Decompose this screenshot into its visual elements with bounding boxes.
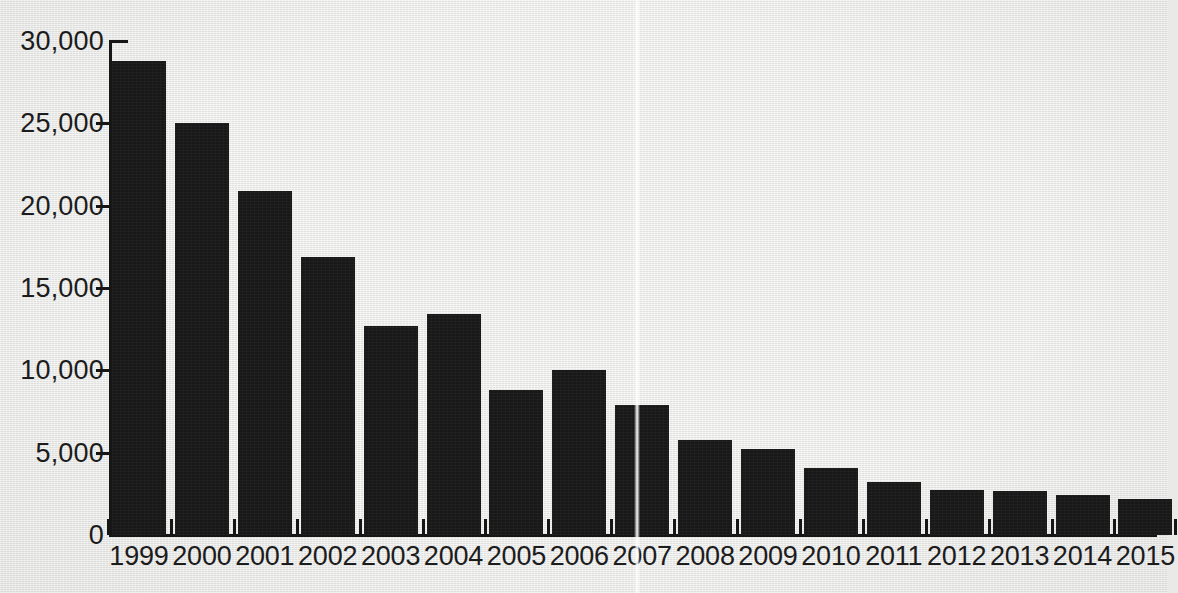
x-axis-tick-mark: [925, 519, 928, 535]
x-axis-tick-mark: [1051, 519, 1054, 535]
bar: [427, 314, 481, 535]
x-axis-tick-mark: [610, 519, 613, 535]
x-axis-tick-label: 2003: [358, 541, 424, 572]
bar: [112, 61, 166, 535]
bar: [930, 490, 984, 535]
x-axis-tick-label: 2013: [987, 541, 1053, 572]
bar: [1056, 495, 1110, 535]
bar: [175, 123, 229, 535]
x-axis-tick-mark: [170, 519, 173, 535]
x-axis-tick-mark: [422, 519, 425, 535]
bar: [678, 440, 732, 536]
x-axis-tick-label: 2004: [421, 541, 487, 572]
bar: [741, 449, 795, 535]
bar: [238, 191, 292, 535]
bar: [552, 370, 606, 535]
x-axis-tick-mark: [359, 519, 362, 535]
x-axis-tick-label: 2008: [672, 541, 738, 572]
x-axis-tick-mark: [673, 519, 676, 535]
x-axis-tick-label: 2010: [798, 541, 864, 572]
x-axis-tick-mark: [1113, 519, 1116, 535]
x-axis-tick-label: 2011: [861, 541, 927, 572]
x-axis-tick-label: 2012: [924, 541, 990, 572]
x-axis-tick-mark: [296, 519, 299, 535]
x-axis-tick-mark: [547, 519, 550, 535]
x-axis-tick-mark: [736, 519, 739, 535]
x-axis-tick-label: 2005: [483, 541, 549, 572]
bar: [804, 468, 858, 536]
x-axis-tick-label: 1999: [106, 541, 172, 572]
x-axis-tick-mark: [799, 519, 802, 535]
x-axis-tick-label: 2002: [295, 541, 361, 572]
bar: [615, 405, 669, 535]
bar: [867, 482, 921, 535]
x-axis-tick-mark: [484, 519, 487, 535]
bar: [301, 257, 355, 535]
bar: [364, 326, 418, 535]
x-axis-tick-mark: [988, 519, 991, 535]
x-axis-tick-label: 2009: [735, 541, 801, 572]
x-axis-tick-label: 2015: [1112, 541, 1178, 572]
bar: [1118, 499, 1172, 535]
bar: [993, 491, 1047, 535]
x-axis-tick-label: 2006: [546, 541, 612, 572]
x-axis-tick-mark: [233, 519, 236, 535]
x-axis-tick-label: 2001: [232, 541, 298, 572]
x-axis-tick-mark: [1174, 519, 1177, 535]
x-axis-tick-label: 2007: [609, 541, 675, 572]
x-axis-tick-mark: [862, 519, 865, 535]
x-axis-tick-mark: [107, 519, 110, 535]
bar: [489, 390, 543, 535]
x-axis-tick-label: 2000: [169, 541, 235, 572]
x-axis-tick-label: 2014: [1050, 541, 1116, 572]
